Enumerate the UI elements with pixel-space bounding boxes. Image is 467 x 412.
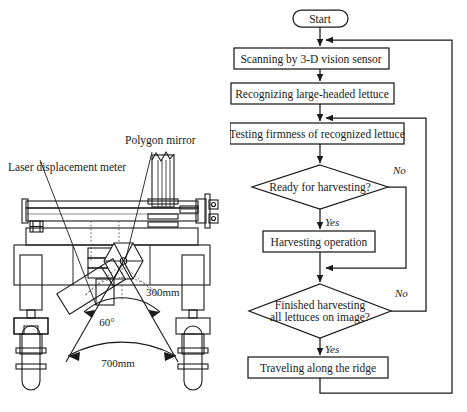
node-recognize-label: Recognizing large-headed lettuce (235, 88, 389, 101)
edge-label-finished-no: No (394, 287, 408, 299)
figure-root: Polygon mirror Laser displacement meter … (0, 0, 467, 412)
flowchart-panel: Start Scanning by 3-D vision sensor Reco… (230, 0, 467, 412)
edge-label-finished-yes: Yes (325, 343, 339, 355)
node-finished-label-line2: all lettuces on image? (270, 311, 370, 324)
machine-diagram-panel: Polygon mirror Laser displacement meter … (0, 0, 232, 412)
label-dimension-angle: 60° (99, 316, 114, 328)
label-dimension-300mm: 300mm (146, 286, 180, 298)
node-ready-label: Ready for harvesting? (269, 181, 371, 194)
edge-label-ready-yes: Yes (325, 216, 339, 228)
node-scan-label: Scanning by 3-D vision sensor (240, 53, 381, 66)
dimension-arrowheads (68, 310, 176, 361)
mast-column (148, 152, 178, 227)
label-polygon-mirror: Polygon mirror (125, 134, 196, 147)
node-harvest-label: Harvesting operation (271, 236, 368, 249)
gantry-beam (22, 194, 218, 228)
node-testing-label: Testing firmness of recognized lettuce (230, 128, 405, 141)
right-wheel-assembly (176, 255, 210, 390)
beam-slider (180, 206, 198, 213)
node-start-label: Start (309, 13, 332, 25)
node-traveling-label: Traveling along the ridge (260, 362, 376, 375)
loop-finished-no (326, 118, 426, 311)
edge-label-ready-no: No (392, 164, 406, 176)
left-bracket (30, 221, 43, 232)
left-wheel-assembly (14, 255, 48, 390)
label-dimension-700mm: 700mm (101, 357, 135, 369)
polygon-mirror-assembly (88, 243, 143, 279)
label-laser-displacement-meter: Laser displacement meter (8, 161, 126, 174)
